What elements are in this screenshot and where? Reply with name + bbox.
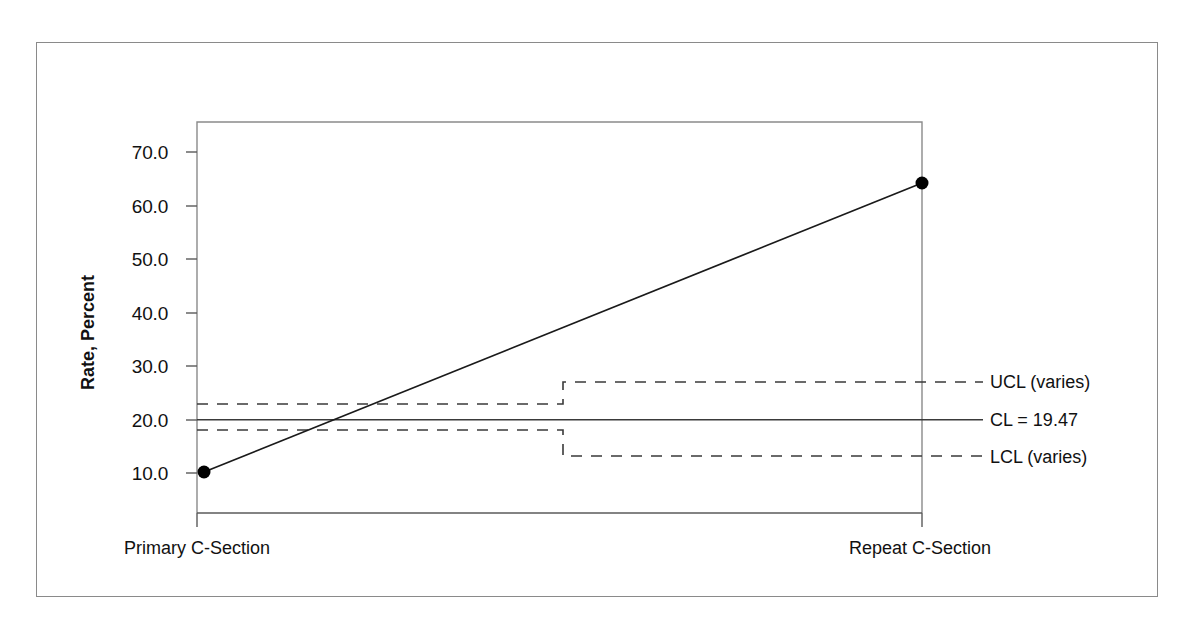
y-tick-label-30: 30.0 — [98, 356, 168, 378]
data-series-line — [204, 183, 922, 472]
y-axis-title: Rate, Percent — [78, 275, 99, 390]
y-tick-label-50: 50.0 — [98, 249, 168, 271]
data-point-primary-c-section — [198, 466, 211, 479]
ucl-line — [197, 382, 983, 404]
y-tick-label-10: 10.0 — [98, 463, 168, 485]
ucl-label: UCL (varies) — [990, 372, 1090, 393]
y-axis-ticks — [186, 152, 197, 473]
data-point-repeat-c-section — [916, 177, 929, 190]
y-tick-label-40: 40.0 — [98, 303, 168, 325]
x-tick-label-repeat: Repeat C-Section — [849, 538, 991, 559]
lcl-line — [197, 430, 983, 456]
y-tick-label-70: 70.0 — [98, 142, 168, 164]
lcl-label: LCL (varies) — [990, 447, 1087, 468]
x-tick-label-primary: Primary C-Section — [124, 538, 270, 559]
control-chart-figure: 70.0 60.0 50.0 40.0 30.0 20.0 10.0 Rate,… — [0, 0, 1188, 633]
x-axis-line — [197, 513, 922, 527]
cl-label: CL = 19.47 — [990, 410, 1078, 431]
y-tick-label-20: 20.0 — [98, 410, 168, 432]
plot-area-frame — [197, 122, 922, 513]
y-tick-label-60: 60.0 — [98, 196, 168, 218]
